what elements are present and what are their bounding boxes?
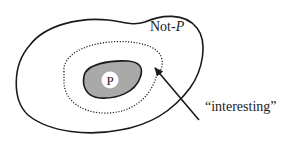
p-label: P [106,73,113,88]
not-p-label-prefix: Not- [150,19,176,34]
interesting-arrow [155,68,199,120]
diagram-canvas: P Not-P “interesting” [0,0,292,143]
not-p-label: Not-P [150,19,185,34]
interesting-label: “interesting” [205,99,277,114]
not-p-label-var: P [175,19,185,34]
